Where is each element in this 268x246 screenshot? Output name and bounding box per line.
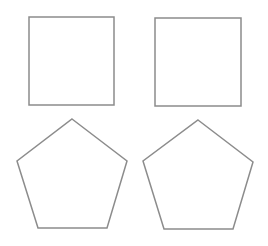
diagram-canvas [0,0,268,246]
pentagon-bottom-right [143,120,253,229]
square-top-left [29,17,114,105]
shapes-svg [0,0,268,246]
square-top-right [155,18,241,106]
pentagon-bottom-left [17,119,127,228]
